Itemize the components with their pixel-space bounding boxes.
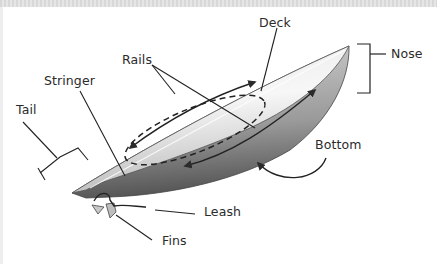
fins-leader-line: [116, 215, 152, 240]
stringer-leader-line: [80, 91, 125, 176]
label-bottom: Bottom: [315, 137, 361, 152]
label-tail: Tail: [16, 102, 37, 117]
label-stringer: Stringer: [44, 73, 95, 88]
tail-bracket: [40, 148, 88, 173]
fin-shape: [92, 205, 104, 214]
label-leash: Leash: [204, 204, 241, 219]
label-fins: Fins: [162, 233, 187, 248]
nose-bracket: [357, 44, 370, 93]
label-deck: Deck: [259, 15, 291, 30]
rails-leader-line-1: [152, 65, 175, 94]
surfboard-diagram: [0, 0, 437, 264]
label-nose: Nose: [391, 46, 423, 61]
label-rails: Rails: [122, 52, 152, 67]
tail-leader-line: [23, 122, 57, 158]
leash-leader-line: [155, 210, 195, 214]
